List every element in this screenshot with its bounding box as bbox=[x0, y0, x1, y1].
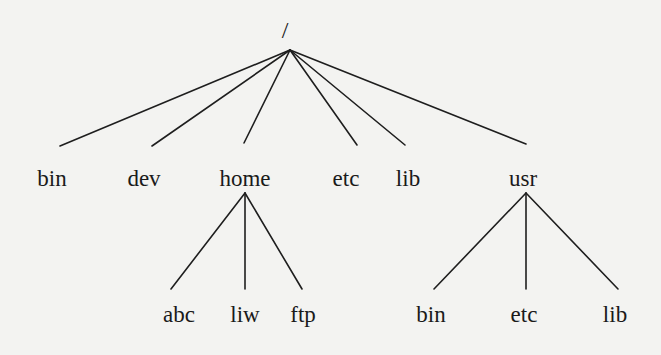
directory-tree-diagram: / bin dev home etc lib usr abc liw ftp b… bbox=[0, 0, 661, 355]
dir-usr-bin: bin bbox=[416, 303, 445, 326]
edge-root-to-usr bbox=[290, 50, 526, 144]
dir-home-abc: abc bbox=[163, 303, 195, 326]
edge-root-to-dev bbox=[152, 50, 290, 146]
dir-home-ftp: ftp bbox=[290, 303, 316, 326]
dir-usr: usr bbox=[509, 167, 537, 190]
edge-home-to-abc bbox=[171, 193, 245, 289]
edge-home-to-ftp bbox=[245, 193, 302, 289]
dir-home: home bbox=[219, 167, 270, 190]
dir-lib: lib bbox=[396, 167, 420, 190]
dir-dev: dev bbox=[127, 167, 160, 190]
tree-edges bbox=[0, 0, 661, 355]
edge-root-to-home bbox=[244, 50, 290, 143]
dir-bin: bin bbox=[37, 167, 66, 190]
dir-etc: etc bbox=[333, 167, 360, 190]
root-directory-label: / bbox=[282, 18, 289, 42]
edge-usr-to-lib bbox=[526, 193, 618, 289]
dir-usr-lib: lib bbox=[603, 303, 627, 326]
dir-home-liw: liw bbox=[230, 303, 259, 326]
edge-usr-to-bin bbox=[434, 193, 526, 289]
dir-usr-etc: etc bbox=[511, 303, 538, 326]
edge-root-to-bin bbox=[60, 50, 290, 146]
